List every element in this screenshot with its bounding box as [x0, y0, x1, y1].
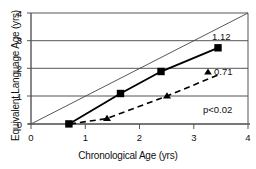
slope-annotation-upper: 1.12	[212, 31, 231, 42]
x-tick-label: 0	[28, 132, 33, 143]
chart-figure: 4 3 2 1 0 0 1 2 3 4	[0, 0, 256, 169]
y-axis-title: Equivalent Language Age (yrs)	[10, 1, 21, 151]
chart-plot-area: 4 3 2 1 0 0 1 2 3 4	[0, 0, 256, 169]
slope-annotation-lower: 0.71	[214, 66, 233, 77]
x-tick-label: 1	[83, 132, 88, 143]
x-tick-label: 2	[137, 132, 142, 143]
x-tick-label: 3	[191, 132, 196, 143]
x-axis-title: Chronological Age (yrs)	[0, 150, 256, 161]
p-value-annotation: p<0.02	[203, 104, 232, 115]
triangle-legend-icon	[204, 69, 212, 75]
triangle-dashed-series-line	[70, 75, 218, 124]
x-tick-label: 4	[245, 132, 250, 143]
square-solid-series-line	[69, 48, 218, 124]
x-tick-labels: 0 1 2 3 4	[28, 132, 250, 143]
